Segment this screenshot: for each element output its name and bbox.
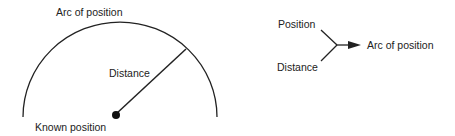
distance-line (116, 49, 186, 114)
left-diagram: Arc of position Distance Known position (23, 6, 217, 133)
arc-of-position-output-label: Arc of position (367, 39, 434, 51)
position-input-label: Position (278, 18, 316, 30)
known-position-dot (112, 111, 120, 119)
distance-branch-line (321, 45, 337, 61)
arc-of-position-diagram: Arc of position Distance Known position … (0, 0, 455, 136)
distance-input-label: Distance (277, 61, 318, 73)
distance-label: Distance (109, 67, 150, 79)
arc-of-position-label: Arc of position (56, 6, 123, 18)
position-branch-line (321, 30, 337, 45)
arrow-right-icon (348, 41, 361, 49)
known-position-label: Known position (35, 121, 106, 133)
right-diagram: Position Distance Arc of position (277, 18, 434, 73)
